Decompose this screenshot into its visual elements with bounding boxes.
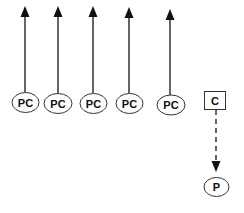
p-node: P	[204, 178, 229, 197]
pc-label-1: PC	[18, 97, 33, 109]
dashed-arrow-c-to-p	[212, 110, 221, 172]
c-label: C	[211, 95, 219, 107]
pc-node-4: PC	[116, 7, 143, 114]
arrowhead-icon	[166, 9, 175, 20]
pc-label-2: PC	[50, 98, 65, 110]
pc-node-5: PC	[157, 9, 185, 115]
pc-label-3: PC	[86, 98, 101, 110]
arrowhead-icon	[212, 161, 221, 172]
arrowhead-icon	[125, 7, 134, 18]
pc-node-2: PC	[44, 6, 72, 114]
pc-node-3: PC	[80, 6, 107, 114]
c-node: C	[205, 92, 226, 110]
diagram-canvas: PC PC PC PC PC C P	[0, 0, 244, 213]
pc-label-4: PC	[122, 98, 137, 110]
arrowhead-icon	[54, 6, 63, 17]
pc-node-1: PC	[12, 6, 39, 113]
arrowhead-icon	[89, 6, 98, 17]
p-label: P	[213, 181, 220, 193]
arrowhead-icon	[21, 6, 30, 17]
pc-label-5: PC	[163, 99, 178, 111]
